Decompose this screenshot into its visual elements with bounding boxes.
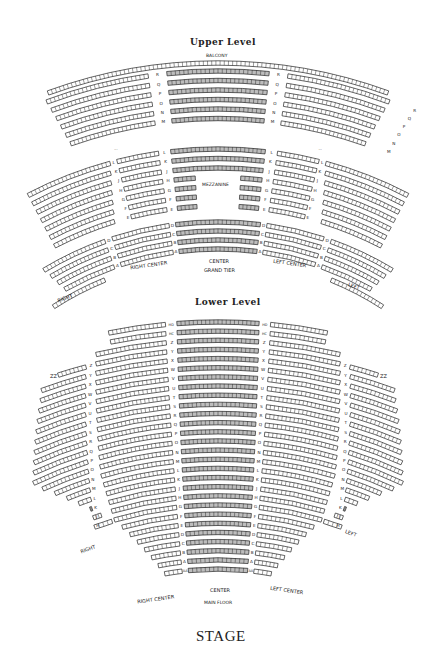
row-label-B: B [251,550,254,555]
mezzanine-right-box-G[interactable] [240,185,261,191]
main-center-row-F[interactable] [185,512,252,518]
main-center-row-G[interactable] [184,503,252,509]
mezzanine-right-box-E[interactable] [239,204,259,210]
main-right-row-L[interactable] [344,497,358,506]
main-right-center-row-B[interactable] [255,551,285,560]
row-label-Q: Q [89,449,93,454]
mezzanine-left-box-H[interactable] [174,176,196,182]
balcony-right-row-M[interactable] [281,121,366,146]
mezzanine-left-box-G[interactable] [175,185,196,191]
row-label-B: B [113,255,116,260]
row-label-O: O [258,440,262,445]
row-label-O: O [91,467,95,472]
main-center-row-X[interactable] [178,356,259,362]
mezzanine-left-box-E[interactable] [177,204,197,210]
main-center-row-D[interactable] [186,530,251,536]
balcony-center-row-Q[interactable] [168,78,269,85]
main-center-row-HC[interactable] [177,329,259,335]
main-center-row-HD[interactable] [177,320,260,326]
row-label-C: C [251,541,254,546]
balcony-center-row-N[interactable] [171,107,266,114]
main-center-row-V[interactable] [178,375,257,381]
row-label-Q: Q [259,422,263,427]
tier-right-row-G[interactable] [272,189,311,201]
main-right-center-row-A[interactable] [254,560,278,568]
mezzanine-left-box-F[interactable] [176,195,197,201]
mezzanine-right-box-F[interactable] [239,195,260,201]
main-right-center-row-C[interactable] [256,542,292,552]
row-label-HC: HC [262,332,268,336]
main-center-row-Y[interactable] [177,347,258,353]
main-center-row-M[interactable] [182,457,255,463]
tier-left-row-E[interactable] [131,208,168,219]
row-label-M: M [162,119,166,124]
main-left-center-row-AA[interactable] [164,569,182,576]
row-label-R: R [174,413,177,418]
main-center-row-T[interactable] [179,393,257,399]
row-label-R: R [344,439,347,444]
mezzanine-center-row-J[interactable] [173,166,264,173]
row-label-K: K [256,477,259,482]
mezzanine-right-box-H[interactable] [241,176,263,182]
main-center-row-O[interactable] [181,439,255,445]
tier-right-row-E[interactable] [269,208,306,219]
grand-tier-center-row-A[interactable] [179,247,258,254]
mezzanine-center-row-L[interactable] [171,147,266,154]
main-center-row-H[interactable] [184,494,253,500]
row-label-Q: Q [174,422,178,427]
row-label-A: A [183,559,186,564]
main-center-row-E[interactable] [185,521,251,527]
main-left-center-row-B[interactable] [151,551,181,560]
main-center-row-Q[interactable] [180,420,256,426]
main-center-row-R[interactable] [180,411,257,417]
row-label-N: N [392,141,395,146]
main-center-row-K[interactable] [183,475,254,481]
row-label-T: T [88,420,92,425]
main-center-row-A[interactable] [188,558,249,564]
mezzanine-center-row-K[interactable] [172,156,265,163]
main-center-row-S[interactable] [179,402,256,408]
stage-label: STAGE [196,628,246,645]
tier-right-row-F[interactable] [270,198,308,210]
row-label-W: W [344,392,348,397]
main-center-row-N[interactable] [181,448,255,454]
main-left-row-L[interactable] [78,497,92,506]
main-center-row-W[interactable] [178,366,258,372]
main-left-center-row-C[interactable] [144,542,180,552]
row-label-F: F [180,514,183,519]
main-right-center-row-AA[interactable] [254,569,272,576]
row-label-B: B [260,240,263,245]
main-center-row-Z[interactable] [177,338,259,344]
grand-tier-center-row-D[interactable] [175,220,260,227]
main-right-row-K[interactable] [343,506,346,511]
row-label-G: G [265,188,268,193]
main-center-row-C[interactable] [186,539,249,545]
balcony-center-row-O[interactable] [170,97,267,104]
row-label-D: D [262,223,265,228]
balcony-center-row-P[interactable] [169,88,268,95]
row-label-K: K [339,505,342,510]
main-center-row-B[interactable] [187,549,249,555]
row-label-Z: Z [263,340,266,345]
tier-left-row-G[interactable] [126,189,165,201]
row-label-H: H [178,495,181,500]
row-label-X: X [262,358,265,363]
balcony-label: BALCONY [206,53,227,58]
main-center-row-P[interactable] [180,430,255,436]
balcony-center-row-R[interactable] [167,69,270,76]
row-label-C: C [261,232,264,237]
main-center-row-AA[interactable] [188,567,248,573]
grand-tier-center-row-B[interactable] [178,238,259,245]
balcony-left-row-M[interactable] [70,121,155,146]
row-label-L: L [177,468,180,473]
tier-left-row-F[interactable] [128,198,166,210]
main-center-row-L[interactable] [182,466,254,472]
row-label-X: X [344,382,347,387]
main-center-row-U[interactable] [179,384,258,390]
grand-tier-center-row-C[interactable] [176,229,259,236]
main-left-center-row-A[interactable] [158,560,182,568]
row-label-L: L [163,150,166,155]
main-left-row-K[interactable] [90,506,93,511]
main-center-row-J[interactable] [183,485,253,491]
balcony-center-row-M[interactable] [172,116,265,123]
